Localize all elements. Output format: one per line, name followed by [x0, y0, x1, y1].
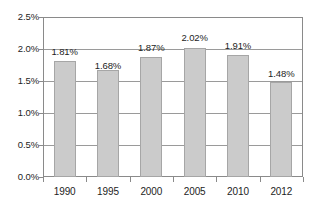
bar-chart: 2.5% 2.0% 1.5% 1.0% 0.5% 0.0% 1.81% 1.68… — [0, 0, 317, 209]
x-tick-mark-3 — [173, 177, 174, 182]
bar-group-2005: 2.02% — [173, 17, 216, 177]
bar-value-2005: 2.02% — [181, 33, 207, 43]
bars-layer: 1.81% 1.68% 1.87% 2.02% 1.91% 1.48% — [43, 17, 303, 177]
x-tick-mark-1 — [86, 177, 87, 182]
bar-2005[interactable] — [184, 48, 206, 177]
x-axis-label-2010: 2010 — [227, 186, 249, 198]
x-tick-mark-4 — [216, 177, 217, 182]
bar-2000[interactable] — [140, 57, 162, 177]
x-tick-mark-2 — [130, 177, 131, 182]
bar-value-2010: 1.91% — [225, 41, 251, 51]
x-axis-ticks — [43, 177, 303, 183]
bar-group-1995: 1.68% — [86, 17, 129, 177]
y-axis: 2.5% 2.0% 1.5% 1.0% 0.5% 0.0% — [0, 0, 39, 209]
bar-1990[interactable] — [54, 61, 76, 177]
x-axis-label-2000: 2000 — [140, 186, 162, 198]
x-axis-label-1995: 1995 — [97, 186, 119, 198]
x-axis-label-1990: 1990 — [54, 186, 76, 198]
bar-value-2000: 1.87% — [138, 43, 164, 53]
y-axis-label-0-0: 0.0% — [3, 172, 39, 182]
bar-1995[interactable] — [97, 70, 119, 178]
y-axis-label-0-5: 0.5% — [3, 140, 39, 150]
bar-value-2012: 1.48% — [268, 69, 294, 79]
bar-group-1990: 1.81% — [43, 17, 86, 177]
x-axis-label-2012: 2012 — [270, 186, 292, 198]
x-axis-label-2005: 2005 — [184, 186, 206, 198]
bar-2010[interactable] — [227, 55, 249, 177]
bar-group-2012: 1.48% — [260, 17, 303, 177]
x-tick-mark-6 — [303, 177, 304, 182]
y-axis-label-2-0: 2.0% — [3, 44, 39, 54]
y-axis-label-1-5: 1.5% — [3, 76, 39, 86]
y-axis-label-1-0: 1.0% — [3, 108, 39, 118]
bar-2012[interactable] — [270, 82, 292, 177]
x-axis-labels: 1990 1995 2000 2005 2010 2012 — [43, 186, 303, 200]
bar-value-1990: 1.81% — [51, 47, 77, 57]
bar-group-2010: 1.91% — [216, 17, 259, 177]
y-axis-label-2-5: 2.5% — [3, 12, 39, 22]
x-tick-mark-5 — [260, 177, 261, 182]
x-tick-mark-0 — [43, 177, 44, 182]
bar-group-2000: 1.87% — [130, 17, 173, 177]
